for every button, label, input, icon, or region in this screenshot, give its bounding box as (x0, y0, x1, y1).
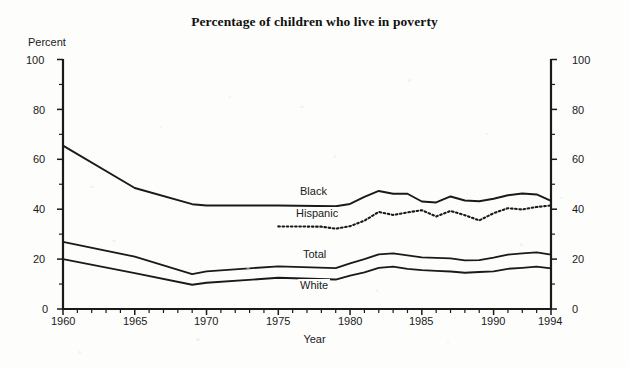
y-tick-right-60: 60 (572, 153, 584, 165)
scan-speck (196, 338, 200, 341)
scan-speck (376, 289, 378, 292)
scan-speck (486, 133, 489, 135)
x-tick-1980: 1980 (338, 315, 362, 327)
y-tick-right-20: 20 (572, 253, 584, 265)
x-tick-1994: 1994 (538, 315, 562, 327)
scan-speck (520, 243, 523, 246)
series-line-black (63, 146, 551, 207)
y-tick-left-0: 0 (42, 303, 48, 315)
scan-speck (229, 96, 231, 98)
scan-speck (560, 197, 563, 199)
x-tick-1965: 1965 (123, 315, 147, 327)
scan-speck (408, 79, 411, 82)
scan-speck (112, 240, 116, 242)
y-tick-right-100: 100 (572, 54, 590, 66)
y-tick-left-40: 40 (33, 203, 45, 215)
y-tick-left-60: 60 (33, 153, 45, 165)
x-tick-1985: 1985 (409, 315, 433, 327)
y-tick-left-20: 20 (33, 253, 45, 265)
x-tick-1990: 1990 (481, 315, 505, 327)
scan-speck (334, 155, 336, 158)
scan-speck (90, 186, 94, 188)
series-label-black: Black (298, 185, 329, 197)
series-label-hispanic: Hispanic (294, 207, 340, 219)
scan-speck (300, 106, 304, 108)
y-tick-right-80: 80 (572, 104, 584, 116)
series-label-white: White (298, 279, 330, 291)
y-tick-right-40: 40 (572, 203, 584, 215)
chart-plot (0, 0, 629, 367)
y-tick-right-0: 0 (572, 303, 578, 315)
scan-speck (447, 341, 449, 343)
x-axis-label: Year (0, 333, 629, 345)
x-tick-1975: 1975 (266, 315, 290, 327)
scan-speck (246, 266, 250, 269)
chart-page: Percentage of children who live in pover… (0, 0, 629, 367)
series-label-total: Total (301, 248, 328, 260)
y-tick-left-100: 100 (26, 54, 44, 66)
y-tick-left-80: 80 (33, 104, 45, 116)
x-tick-1970: 1970 (194, 315, 218, 327)
x-tick-1960: 1960 (51, 315, 75, 327)
scan-speck (160, 126, 162, 128)
scan-speck (78, 351, 81, 354)
